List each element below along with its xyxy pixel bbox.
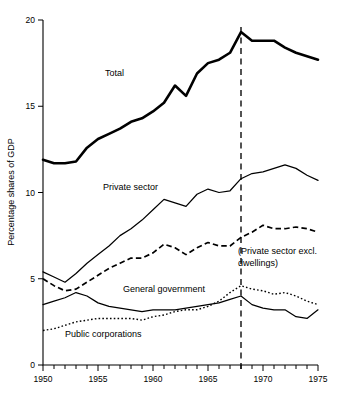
chart-background bbox=[0, 0, 341, 396]
x-tick-label-1975: 1975 bbox=[309, 374, 328, 384]
y-tick-label-15: 15 bbox=[26, 101, 36, 111]
y-tick-label-0: 0 bbox=[30, 360, 35, 370]
investment-shares-line-chart: 05101520 195019551960196519701975 Percen… bbox=[0, 0, 341, 396]
series-label-total: Total bbox=[105, 68, 124, 78]
x-tick-label-1965: 1965 bbox=[199, 374, 218, 384]
y-tick-label-20: 20 bbox=[26, 15, 36, 25]
y-tick-label-5: 5 bbox=[30, 274, 35, 284]
series-label-private-excl-dwellings-line2: dwellings) bbox=[238, 258, 278, 268]
x-tick-label-1970: 1970 bbox=[254, 374, 273, 384]
y-axis-title: Percentage shares of GDP bbox=[6, 138, 16, 246]
series-label-public-corporations: Public corporations bbox=[65, 329, 142, 339]
chart-figure: 05101520 195019551960196519701975 Percen… bbox=[0, 0, 341, 396]
y-tick-label-10: 10 bbox=[26, 188, 36, 198]
x-tick-label-1955: 1955 bbox=[89, 374, 108, 384]
series-label-general-government: General government bbox=[123, 284, 206, 294]
series-label-private-sector: Private sector bbox=[103, 182, 158, 192]
x-tick-label-1950: 1950 bbox=[34, 374, 53, 384]
x-tick-label-1960: 1960 bbox=[144, 374, 163, 384]
series-label-private-excl-dwellings-line1: (Private sector excl. bbox=[238, 246, 317, 256]
